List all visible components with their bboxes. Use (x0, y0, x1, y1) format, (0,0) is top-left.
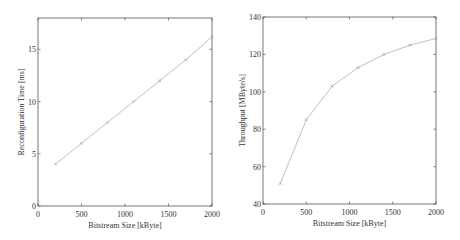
y-axis-label: Reconfiguration Time [ms] (17, 68, 26, 155)
x-tick-label: 500 (76, 210, 88, 219)
x-tick-label: 500 (300, 208, 312, 217)
x-tick-label: 1000 (117, 210, 133, 219)
x-axis-label: Bitstream Size [kByte] (313, 219, 387, 228)
y-tick-label: 140 (249, 13, 261, 22)
y-axis-label: Throughput [MByte/s] (238, 74, 247, 147)
x-tick-label: 2000 (204, 210, 220, 219)
y-tick-label: 5 (32, 150, 36, 159)
figure: 0500100015002000051015Bitstream Size [kB… (0, 0, 460, 240)
throughput-chart: 0500100015002000406080100120140Bitstream… (230, 0, 460, 240)
y-tick-label: 100 (249, 88, 261, 97)
y-tick-label: 120 (249, 50, 261, 59)
y-tick-label: 60 (253, 163, 261, 172)
x-tick-label: 1000 (342, 208, 358, 217)
y-tick-label: 0 (32, 202, 36, 211)
reconfiguration-time-chart: 0500100015002000051015Bitstream Size [kB… (0, 0, 230, 240)
y-tick-label: 80 (253, 125, 261, 134)
y-tick-label: 10 (28, 98, 36, 107)
x-tick-label: 0 (36, 210, 40, 219)
x-tick-label: 1500 (385, 208, 401, 217)
plot-frame (38, 18, 212, 206)
y-tick-label: 40 (253, 200, 261, 209)
x-tick-label: 2000 (428, 208, 444, 217)
x-tick-label: 0 (261, 208, 265, 217)
y-tick-label: 15 (28, 45, 36, 54)
x-tick-label: 1500 (161, 210, 177, 219)
x-axis-label: Bitstream Size [kByte] (88, 221, 162, 230)
